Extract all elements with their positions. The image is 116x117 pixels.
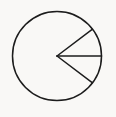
- figure-canvas: [0, 0, 116, 117]
- geometry-figure: [0, 0, 116, 117]
- figure-background: [0, 0, 116, 117]
